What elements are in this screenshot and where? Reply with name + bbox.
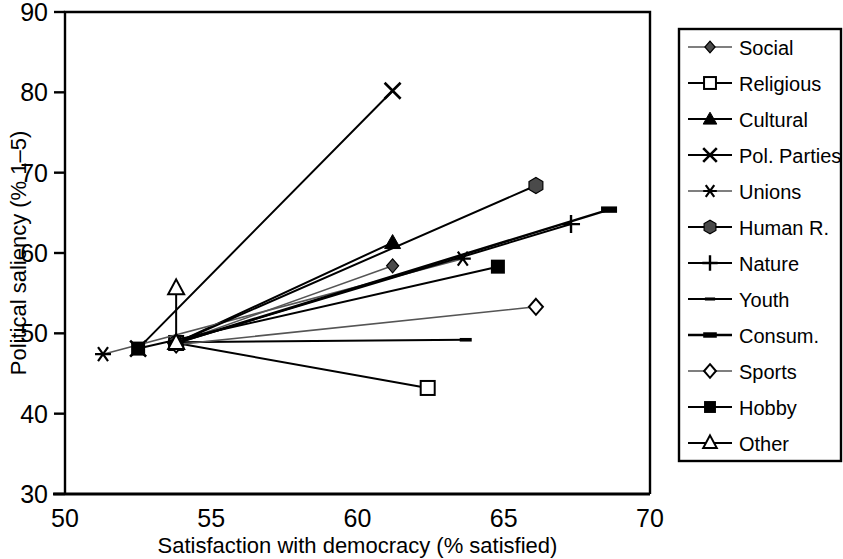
x-axis-tick-label: 55 (197, 504, 225, 532)
marker-open-triangle (168, 279, 184, 294)
series-line (176, 343, 428, 388)
marker-asterisk (95, 347, 111, 361)
legend-item-label: Hobby (739, 397, 797, 419)
marker-filled-hexagon (529, 178, 543, 194)
series-line (138, 267, 498, 349)
series-layer (95, 83, 617, 395)
marker-cross-x (385, 83, 401, 99)
series-line (176, 210, 609, 343)
marker-thick-dash (703, 332, 717, 337)
x-axis-tick-label: 50 (51, 504, 79, 532)
marker-open-square (421, 381, 435, 395)
x-axis-title: Satisfaction with democracy (% satisfied… (158, 533, 558, 558)
marker-filled-square (491, 260, 505, 274)
legend: SocialReligiousCulturalPol. PartiesUnion… (679, 29, 841, 461)
marker-dash (705, 297, 715, 300)
series-social (170, 259, 398, 350)
legend-item-label: Religious (739, 73, 821, 95)
marker-filled-square (131, 342, 145, 356)
y-axis-tick-label: 80 (20, 78, 48, 106)
series-consum (168, 206, 617, 346)
legend-item-label: Nature (739, 253, 799, 275)
legend-item-label: Youth (739, 289, 789, 311)
plot-frame (65, 12, 650, 494)
x-axis-tick-label: 70 (636, 504, 664, 532)
x-axis-tick-label: 65 (490, 504, 518, 532)
marker-open-square (704, 77, 716, 89)
legend-item-label: Sports (739, 361, 797, 383)
series-nature (167, 215, 580, 352)
marker-dash (460, 338, 472, 342)
y-axis-tick-label: 30 (20, 480, 48, 508)
legend-item-label: Social (739, 37, 793, 59)
legend-item-label: Cultural (739, 109, 808, 131)
chart-figure: 304050607080905055606570Satisfaction wit… (0, 0, 843, 559)
marker-thick-dash (601, 206, 617, 212)
marker-filled-diamond (387, 259, 399, 273)
series-line (176, 186, 536, 343)
legend-item-label: Pol. Parties (739, 145, 841, 167)
y-axis-title: Political saliency (% 1–5) (6, 131, 31, 376)
legend-item-label: Other (739, 433, 789, 455)
y-axis-tick-label: 40 (20, 400, 48, 428)
legend-item-label: Unions (739, 181, 801, 203)
x-axis-tick-label: 60 (344, 504, 372, 532)
marker-filled-square (704, 401, 716, 413)
marker-open-diamond (529, 299, 543, 315)
series-religious (169, 336, 435, 395)
scatter-line-chart: 304050607080905055606570Satisfaction wit… (0, 0, 843, 559)
marker-filled-hexagon (704, 220, 716, 234)
legend-item-label: Consum. (739, 325, 819, 347)
legend-item-label: Human R. (739, 217, 829, 239)
y-axis-tick-label: 90 (20, 0, 48, 26)
